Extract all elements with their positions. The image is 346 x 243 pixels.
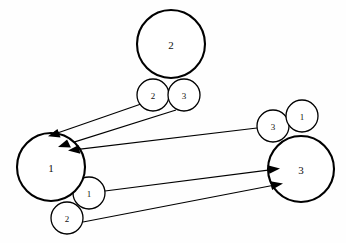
node-label: 3 (298, 164, 304, 176)
node-right-port-1[interactable]: 1 (286, 100, 318, 132)
edge-right-port-3-to-left-node[interactable] (68, 128, 257, 154)
node-left[interactable]: 1 (17, 133, 85, 201)
edge-left-port-1-to-right-node[interactable] (105, 165, 280, 191)
node-label: 2 (168, 39, 174, 51)
edge-top-port-3-to-left-node[interactable] (58, 110, 176, 148)
edge-line (76, 128, 257, 150)
node-right-port-3[interactable]: 3 (257, 110, 289, 142)
node-label: 2 (65, 214, 70, 224)
graph-diagram: 2 3 1 2 3 1 2 1 (0, 0, 346, 243)
edge-line (56, 104, 141, 134)
node-top-port-3[interactable]: 3 (168, 79, 200, 111)
edge-line (105, 170, 272, 191)
node-label: 3 (182, 91, 187, 101)
node-label: 3 (271, 122, 276, 132)
node-top[interactable]: 2 (137, 10, 205, 78)
node-label: 2 (151, 91, 156, 101)
node-label: 1 (87, 189, 92, 199)
node-left-port-2[interactable]: 2 (51, 202, 83, 234)
edge-top-port-2-to-left-node[interactable] (48, 104, 141, 137)
node-label: 1 (48, 162, 54, 174)
edge-left-port-2-to-right-node[interactable] (83, 181, 283, 222)
node-top-port-2[interactable]: 2 (137, 79, 169, 111)
node-label: 1 (300, 112, 305, 122)
